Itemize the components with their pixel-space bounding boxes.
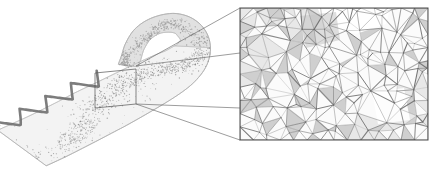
folded-ribbon-surface: [0, 13, 210, 165]
overview-panel: [0, 13, 211, 165]
detail-panel[interactable]: [240, 8, 428, 140]
figure-root: [0, 0, 442, 176]
connector-line-4: [136, 104, 240, 140]
figure-canvas: [0, 0, 442, 176]
